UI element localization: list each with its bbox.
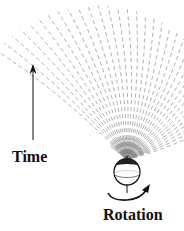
trajectory-line xyxy=(29,24,127,160)
trajectory-line xyxy=(127,96,184,161)
rotation-label: Rotation xyxy=(103,206,163,224)
trajectory-line xyxy=(127,110,184,160)
rotation-arrow-icon xyxy=(108,184,150,200)
trajectory-fan xyxy=(0,6,184,160)
time-arrow-icon xyxy=(30,64,37,140)
rotation-diagram: Time Rotation xyxy=(0,0,184,231)
sphere-icon xyxy=(114,156,140,193)
trajectory-line xyxy=(68,9,127,160)
trajectory-line xyxy=(48,15,127,160)
time-label: Time xyxy=(12,148,47,166)
trajectory-line xyxy=(58,12,127,160)
